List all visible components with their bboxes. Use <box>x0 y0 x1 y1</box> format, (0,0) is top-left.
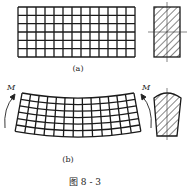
arrowhead-icon <box>141 94 146 100</box>
trapezoidal-cross-section <box>154 88 181 140</box>
moment-label-left: M <box>6 83 16 92</box>
panel-b-label: (b) <box>62 155 73 164</box>
undeformed-grid <box>18 7 135 57</box>
moment-label-right: M <box>141 83 151 92</box>
figure-caption: 图 8 - 3 <box>69 177 101 187</box>
panel-a-label: (a) <box>72 64 83 73</box>
arrowhead-icon <box>10 94 15 100</box>
beam-bending-figure: (a) M M (b) 图 8 - 3 <box>0 0 188 191</box>
moment-arrow-right <box>141 94 151 128</box>
moment-arrow-left <box>5 94 15 128</box>
deformed-grid <box>15 93 141 137</box>
rectangular-cross-section <box>148 2 187 62</box>
